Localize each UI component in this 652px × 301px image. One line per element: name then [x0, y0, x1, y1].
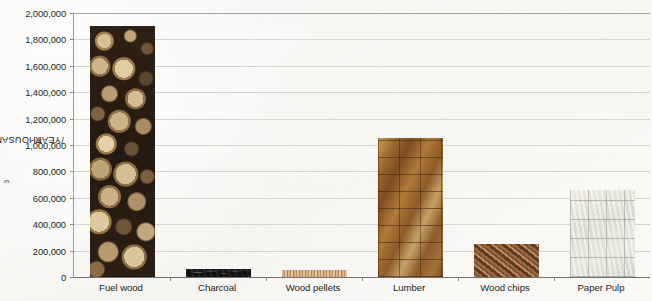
gridline — [74, 171, 650, 172]
gridline — [74, 198, 650, 199]
y-axis-tick-label: 1,600,000 — [25, 60, 66, 71]
y-axis-tick-labels: 2,000,0001,800,0001,600,0001,400,0001,20… — [18, 0, 70, 301]
y-axis-title-exponent: 3 — [3, 179, 10, 183]
bar-fuel-wood — [90, 26, 155, 277]
plot-area — [73, 13, 650, 278]
bar-lumber — [378, 138, 443, 277]
y-axis-tick-label: 600,000 — [33, 192, 66, 203]
bar-wood-chips — [474, 244, 539, 277]
y-axis-tick-label: 1,200,000 — [25, 113, 66, 124]
y-axis-tick — [70, 251, 74, 252]
bar-chart: THOUSANDS OF m3/YEAR 2,000,0001,800,0001… — [0, 0, 652, 301]
x-axis-category-label: Paper Pulp — [578, 282, 625, 293]
x-axis-tick-labels: Fuel woodCharcoalWood pelletsLumberWood … — [73, 280, 649, 300]
y-axis-tick — [70, 277, 74, 278]
bar-wood-pellets — [282, 270, 347, 277]
y-axis-tick — [70, 66, 74, 67]
gridline — [74, 39, 650, 40]
gridline — [74, 251, 650, 252]
y-axis-title: THOUSANDS OF m3/YEAR — [0, 0, 18, 280]
gridline — [74, 66, 650, 67]
y-axis-tick — [70, 171, 74, 172]
x-axis-category-label: Wood chips — [480, 282, 529, 293]
y-axis-tick — [70, 13, 74, 14]
y-axis-tick — [70, 198, 74, 199]
y-axis-tick-label: 200,000 — [33, 245, 66, 256]
y-axis-tick-label: 0 — [61, 272, 66, 283]
x-axis-category-label: Wood pellets — [286, 282, 341, 293]
gridline — [74, 119, 650, 120]
y-axis-tick-label: 800,000 — [33, 166, 66, 177]
gridline — [74, 145, 650, 146]
x-axis-category-label: Lumber — [393, 282, 425, 293]
gridline — [74, 92, 650, 93]
y-axis-tick — [70, 92, 74, 93]
y-axis-tick — [70, 39, 74, 40]
y-axis-tick — [70, 119, 74, 120]
gridline — [74, 224, 650, 225]
gridline — [74, 13, 650, 14]
y-axis-tick — [70, 224, 74, 225]
y-axis-tick-label: 1,800,000 — [25, 34, 66, 45]
y-axis-tick-label: 1,400,000 — [25, 87, 66, 98]
x-axis-category-label: Fuel wood — [99, 282, 143, 293]
y-axis-tick-label: 400,000 — [33, 219, 66, 230]
bar-paper-pulp — [570, 190, 635, 277]
y-axis-tick-label: 1,000,000 — [25, 140, 66, 151]
y-axis-tick — [70, 145, 74, 146]
x-axis-category-label: Charcoal — [198, 282, 236, 293]
y-axis-tick-label: 2,000,000 — [25, 8, 66, 19]
bar-charcoal — [186, 269, 251, 277]
